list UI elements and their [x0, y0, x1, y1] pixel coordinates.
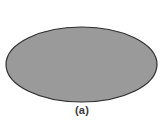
gray-ellipse-shape	[6, 27, 157, 102]
figure-caption-label: (a)	[0, 104, 164, 117]
figure-container: (a)	[0, 0, 164, 126]
